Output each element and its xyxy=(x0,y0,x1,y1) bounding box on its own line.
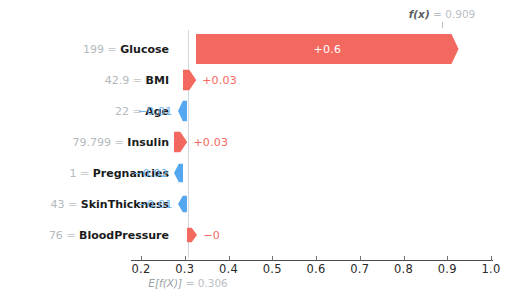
x-tick-label: 0.2 xyxy=(132,262,151,276)
x-tick-label: 0.3 xyxy=(175,262,194,276)
x-tick-mark xyxy=(272,256,273,261)
waterfall-row: 1 = Pregnancies−0.02 xyxy=(0,157,513,188)
feature-name: Glucose xyxy=(120,42,169,55)
shap-bar-positive[interactable] xyxy=(187,227,197,242)
feature-name: Insulin xyxy=(127,135,169,148)
shap-bar-negative[interactable] xyxy=(174,163,183,182)
x-tick-label: 0.5 xyxy=(263,262,282,276)
waterfall-row: 42.9 = BMI+0.03 xyxy=(0,64,513,95)
model-output-equals: = xyxy=(433,8,442,20)
feature-label: 199 = Glucose xyxy=(0,42,175,55)
x-tick-label: 0.9 xyxy=(438,262,457,276)
feature-equals: = xyxy=(115,135,124,148)
waterfall-row: 43 = SkinThickness−0.01 xyxy=(0,188,513,219)
feature-value: 22 xyxy=(115,104,129,117)
feature-value: 79.799 xyxy=(73,135,112,148)
shap-value-label: +0.03 xyxy=(193,135,228,148)
feature-value: 76 xyxy=(49,228,63,241)
shap-value-label: −0.01 xyxy=(138,104,173,117)
feature-value: 1 xyxy=(70,166,77,179)
waterfall-row: 199 = Glucose+0.6 xyxy=(0,33,513,64)
waterfall-row: 22 = Age−0.01 xyxy=(0,95,513,126)
feature-equals: = xyxy=(66,228,75,241)
x-tick-mark xyxy=(404,256,405,261)
base-value-annotation: E[f(X)] = 0.306 xyxy=(148,277,227,289)
shap-value-label: −0.02 xyxy=(133,166,168,179)
base-value-number: 0.306 xyxy=(198,277,228,289)
feature-label: 42.9 = BMI xyxy=(0,73,175,86)
x-tick-mark xyxy=(141,256,142,261)
shap-waterfall-plot: f(x) = 0.909 199 = Glucose+0.642.9 = BMI… xyxy=(0,0,513,303)
feature-equals: = xyxy=(80,166,89,179)
feature-value: 42.9 xyxy=(105,73,130,86)
shap-value-label: −0 xyxy=(203,228,220,241)
feature-equals: = xyxy=(133,73,142,86)
shap-bar-positive[interactable] xyxy=(174,131,187,152)
x-tick-mark xyxy=(316,256,317,261)
model-output-annotation: f(x) = 0.909 xyxy=(409,8,476,20)
base-value-symbol: E[f(X)] xyxy=(148,277,182,289)
feature-label: 76 = BloodPressure xyxy=(0,228,175,241)
feature-name: BloodPressure xyxy=(79,228,169,241)
model-output-tick xyxy=(442,22,443,28)
shap-bar-negative[interactable] xyxy=(178,100,187,121)
shap-bar-positive[interactable] xyxy=(183,69,196,90)
feature-equals: = xyxy=(108,42,117,55)
shap-bar-negative[interactable] xyxy=(178,195,187,212)
model-output-value: 0.909 xyxy=(445,8,475,20)
x-tick-label: 0.7 xyxy=(350,262,369,276)
x-tick-mark xyxy=(185,256,186,261)
shap-value-label: +0.6 xyxy=(314,42,342,55)
waterfall-row: 76 = BloodPressure−0 xyxy=(0,219,513,250)
shap-value-label: −0.01 xyxy=(138,197,173,210)
feature-value: 43 xyxy=(51,197,65,210)
x-tick-label: 1.0 xyxy=(482,262,501,276)
shap-value-label: +0.03 xyxy=(202,73,237,86)
feature-name: BMI xyxy=(146,73,169,86)
x-tick-label: 0.4 xyxy=(219,262,238,276)
feature-equals: = xyxy=(68,197,77,210)
x-tick-label: 0.8 xyxy=(394,262,413,276)
x-tick-mark xyxy=(447,256,448,261)
model-output-symbol: f(x) xyxy=(409,8,430,20)
base-value-equals: = xyxy=(186,277,195,289)
x-tick-mark xyxy=(360,256,361,261)
x-tick-mark xyxy=(229,256,230,261)
x-tick-mark xyxy=(491,256,492,261)
waterfall-row: 79.799 = Insulin+0.03 xyxy=(0,126,513,157)
x-tick-label: 0.6 xyxy=(307,262,326,276)
feature-value: 199 xyxy=(83,42,104,55)
feature-label: 79.799 = Insulin xyxy=(0,135,175,148)
